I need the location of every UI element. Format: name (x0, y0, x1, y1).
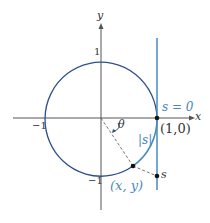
abs-s-label: |s| (138, 133, 152, 147)
tick-y-neg1: −1 (88, 175, 103, 186)
x-axis-label: x (195, 110, 201, 123)
point-xy-label: (x, y) (110, 178, 143, 193)
radius-dashed (101, 118, 133, 166)
y-arrow-icon (99, 23, 104, 29)
point-xy (131, 164, 136, 169)
y-axis-label: y (97, 9, 103, 22)
tick-x-neg1: −1 (32, 120, 47, 131)
tick-y-1: 1 (94, 46, 100, 57)
point-1-0 (155, 116, 160, 121)
point-1-0-label: (1,0) (160, 121, 191, 136)
theta-arrow-icon (112, 129, 116, 133)
s-zero-label: s = 0 (162, 100, 193, 114)
wrap-dashed (133, 166, 157, 176)
s-label: s (161, 168, 167, 181)
point-s (155, 174, 160, 179)
unit-circle-diagram: y x 1 −1 −1 θ s = 0 (1,0) |s| (x, y) s (0, 0, 210, 223)
theta-label: θ (118, 118, 125, 131)
